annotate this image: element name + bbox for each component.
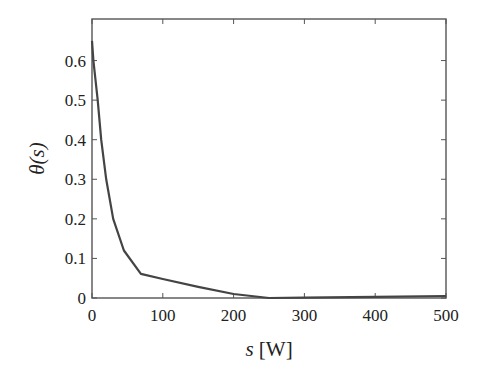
x-tick-label: 100 xyxy=(150,306,176,325)
y-axis-label: θ(s) xyxy=(25,142,49,174)
x-tick-label: 300 xyxy=(292,306,318,325)
line-chart: 00.10.20.30.40.50.6 0100200300400500 s [… xyxy=(0,0,482,385)
x-tick-label: 0 xyxy=(88,306,97,325)
x-axis-label: s [W] xyxy=(245,337,292,361)
x-tick-label: 500 xyxy=(433,306,459,325)
y-tick-label: 0.3 xyxy=(65,170,86,189)
y-tick-label: 0 xyxy=(78,289,87,308)
y-tick-label: 0.4 xyxy=(65,131,87,150)
y-tick-label: 0.6 xyxy=(65,52,86,71)
x-axis-label-unit: [W] xyxy=(254,337,293,361)
plot-area-border xyxy=(92,19,446,298)
plot-frame xyxy=(92,19,446,298)
y-axis-ticks: 00.10.20.30.40.50.6 xyxy=(65,52,446,308)
y-tick-label: 0.5 xyxy=(65,91,86,110)
theta-curve xyxy=(92,41,446,298)
x-tick-label: 400 xyxy=(362,306,388,325)
x-axis-label-var: s xyxy=(245,337,253,361)
x-axis-ticks: 0100200300400500 xyxy=(88,19,459,325)
x-tick-label: 200 xyxy=(221,306,247,325)
y-tick-label: 0.2 xyxy=(65,210,86,229)
y-tick-label: 0.1 xyxy=(65,249,86,268)
